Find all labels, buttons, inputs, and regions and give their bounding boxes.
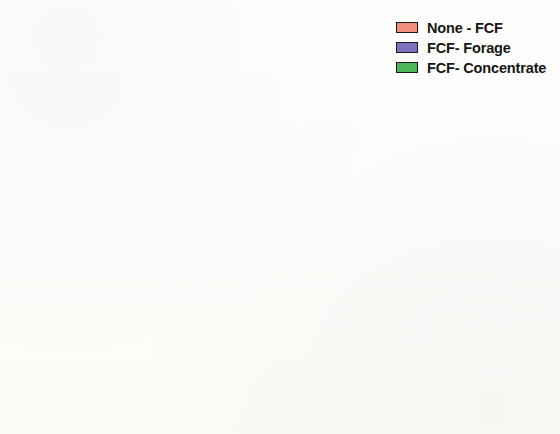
legend-item-none-fcf[interactable]: None - FCF (396, 18, 560, 37)
legend-label-fcf-forage: FCF- Forage (427, 40, 511, 56)
pie-chart-svg: 36.4%49.0%14.6% (0, 0, 440, 434)
legend-label-none-fcf: None - FCF (427, 20, 503, 36)
legend-swatch-none-fcf (396, 22, 418, 33)
pie-slice-group (6, 15, 420, 429)
legend-swatch-fcf-concentrate (396, 62, 418, 73)
pie-chart-plot-area: 36.4%49.0%14.6% (0, 0, 440, 434)
legend-label-fcf-concentrate: FCF- Concentrate (427, 60, 546, 76)
legend-swatch-fcf-forage (396, 42, 418, 53)
pie-chart-figure: 36.4%49.0%14.6% None - FCF FCF- Forage F… (0, 0, 560, 434)
pie-slice-value-label: 14.6% (156, 315, 214, 337)
legend-item-fcf-concentrate[interactable]: FCF- Concentrate (396, 58, 560, 77)
chart-legend: None - FCF FCF- Forage FCF- Concentrate (396, 18, 560, 78)
pie-slice-value-label: 36.4% (85, 163, 143, 185)
legend-item-fcf-forage[interactable]: FCF- Forage (396, 38, 560, 57)
pie-slice-value-label: 49.0% (266, 192, 324, 214)
pie-slice[interactable] (213, 15, 420, 429)
